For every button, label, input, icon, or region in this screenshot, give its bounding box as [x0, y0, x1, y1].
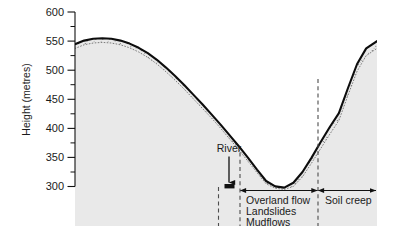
y-tick-label-550: 550	[46, 35, 64, 47]
mudflows-label: Mudflows	[246, 216, 290, 228]
river-label: River	[217, 142, 242, 154]
y-axis: 600 550 500 450 400 350 300 Height (metr…	[20, 6, 75, 193]
y-tick-label-500: 500	[46, 64, 64, 76]
y-axis-title: Height (metres)	[20, 63, 32, 135]
y-tick-label-300: 300	[46, 180, 64, 192]
y-tick-label-600: 600	[46, 6, 64, 18]
valley-cross-section-diagram: 600 550 500 450 400 350 300 Height (metr…	[0, 0, 407, 238]
river-channel-marker	[225, 184, 235, 188]
diagram-canvas: 600 550 500 450 400 350 300 Height (metr…	[0, 0, 407, 238]
y-tick-label-450: 450	[46, 93, 64, 105]
y-tick-label-350: 350	[46, 151, 64, 163]
y-tick-label-400: 400	[46, 122, 64, 134]
soil-creep-label: Soil creep	[325, 194, 372, 206]
